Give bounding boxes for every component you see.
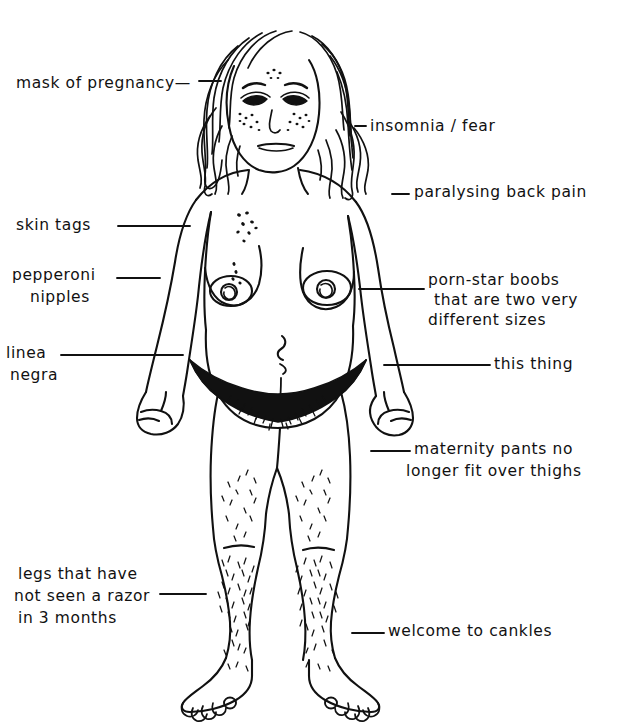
label-linea-negra-line1: linea <box>6 344 46 363</box>
label-mask-of-pregnancy: mask of pregnancy— <box>16 74 191 93</box>
label-legs-razor-line3: in 3 months <box>18 609 117 628</box>
label-insomnia-fear: insomnia / fear <box>370 117 495 136</box>
label-this-thing: this thing <box>494 355 573 374</box>
label-porn-star-boobs-line2: that are two very <box>434 291 578 310</box>
label-legs-razor-line1: legs that have <box>18 565 138 584</box>
label-pepperoni-nipples-line1: pepperoni <box>12 266 96 285</box>
label-welcome-to-cankles: welcome to cankles <box>388 622 552 641</box>
label-legs-razor-line2: not seen a razor <box>14 587 150 606</box>
label-maternity-pants-line2: longer fit over thighs <box>406 462 582 481</box>
label-linea-negra-line2: negra <box>10 366 58 385</box>
label-skin-tags: skin tags <box>16 216 91 235</box>
label-paralysing-back-pain: paralysing back pain <box>414 183 587 202</box>
label-porn-star-boobs-line1: porn-star boobs <box>428 271 560 290</box>
label-porn-star-boobs-line3: different sizes <box>428 311 546 330</box>
label-pepperoni-nipples-line2: nipples <box>30 288 90 307</box>
label-maternity-pants-line1: maternity pants no <box>414 440 573 459</box>
